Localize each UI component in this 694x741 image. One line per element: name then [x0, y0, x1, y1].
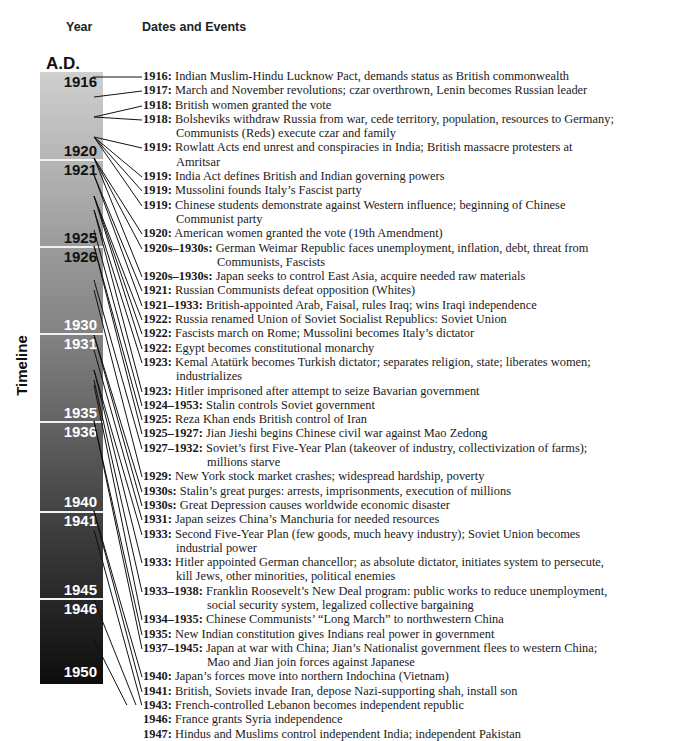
connector-line — [94, 640, 142, 705]
event-date: 1922: — [143, 312, 172, 326]
connector-line — [94, 350, 142, 520]
event-date: 1933–1938: — [143, 584, 203, 598]
event-text-continued: millions starve — [143, 455, 693, 469]
event-item: 1946: France grants Syria independence — [143, 712, 693, 726]
event-item: 1916: Indian Muslim-Hindu Lucknow Pact, … — [143, 69, 693, 83]
event-item: 1927–1932: Soviet’s first Five-Year Plan… — [143, 441, 693, 470]
event-item: 1933: Hitler appointed German chancellor… — [143, 555, 693, 584]
event-text-continued: industrializes — [143, 369, 693, 383]
event-text: India Act defines British and Indian gov… — [175, 169, 444, 183]
event-text: Japan at war with China; Jian’s National… — [206, 641, 597, 655]
event-text: British women granted the vote — [175, 98, 331, 112]
event-date: 1935: — [143, 627, 172, 641]
event-date: 1921: — [143, 283, 172, 297]
event-text: Chinese students demonstrate against Wes… — [175, 198, 565, 212]
event-item: 1919: Mussolini founds Italy’s Fascist p… — [143, 183, 693, 197]
event-text: Russia renamed Union of Soviet Socialist… — [175, 312, 507, 326]
event-item: 1918: Bolsheviks withdraw Russia from wa… — [143, 112, 693, 141]
event-item: 1922: Egypt becomes constitutional monar… — [143, 341, 693, 355]
event-item: 1919: Chinese students demonstrate again… — [143, 198, 693, 227]
event-date: 1937–1945: — [143, 641, 203, 655]
event-date: 1919: — [143, 198, 172, 212]
event-date: 1941: — [143, 684, 172, 698]
event-text: March and November revolutions; czar ove… — [175, 83, 587, 97]
event-date: 1924–1953: — [143, 398, 203, 412]
event-text: Chinese Communists’ “Long March” to nort… — [206, 612, 504, 626]
event-item: 1937–1945: Japan at war with China; Jian… — [143, 641, 693, 670]
event-text: Stalin’s great purges: arrests, imprison… — [180, 484, 511, 498]
event-date: 1934–1935: — [143, 612, 203, 626]
event-item: 1921–1933: British-appointed Arab, Faisa… — [143, 298, 693, 312]
event-text: Japan seizes China’s Manchuria for neede… — [175, 512, 439, 526]
event-text: Jian Jieshi begins Chinese civil war aga… — [206, 426, 488, 440]
event-date: 1920s–1930s: — [143, 241, 213, 255]
event-date: 1922: — [143, 341, 172, 355]
event-date: 1921–1933: — [143, 298, 203, 312]
connector-line — [94, 106, 142, 117]
event-date: 1930s: — [143, 498, 177, 512]
event-text-continued: social security system, legalized collec… — [143, 598, 693, 612]
event-item: 1933: Second Five-Year Plan (few goods, … — [143, 527, 693, 556]
event-text: Second Five-Year Plan (few goods, much h… — [175, 527, 580, 541]
connector-line — [94, 117, 142, 120]
event-text: Hitler appointed German chancellor; as a… — [175, 555, 604, 569]
event-item: 1930s: Stalin’s great purges: arrests, i… — [143, 484, 693, 498]
event-date: 1927–1932: — [143, 441, 203, 455]
event-text: Japan’s forces move into northern Indoch… — [175, 669, 449, 683]
event-text: American women granted the vote (19th Am… — [174, 226, 442, 240]
event-item: 1920: American women granted the vote (1… — [143, 226, 693, 240]
event-item: 1941: British, Soviets invade Iran, depo… — [143, 684, 693, 698]
event-text: Bolsheviks withdraw Russia from war, ced… — [175, 112, 614, 126]
event-text: Fascists march on Rome; Mussolini become… — [175, 326, 474, 340]
event-item: 1919: India Act defines British and Indi… — [143, 169, 693, 183]
event-text: British, Soviets invade Iran, depose Naz… — [175, 684, 517, 698]
event-item: 1940: Japan’s forces move into northern … — [143, 669, 693, 683]
event-text-continued: Mao and Jian join forces against Japanes… — [143, 655, 693, 669]
event-item: 1920s–1930s: German Weimar Republic face… — [143, 241, 693, 270]
event-item: 1947: Hindus and Muslims control indepen… — [143, 727, 693, 741]
event-date: 1940: — [143, 669, 172, 683]
event-date: 1917: — [143, 83, 172, 97]
event-date: 1946: — [143, 712, 172, 726]
connector-line — [94, 137, 142, 191]
event-text: Japan seeks to control East Asia, acquir… — [216, 269, 526, 283]
event-item: 1924–1953: Stalin controls Soviet govern… — [143, 398, 693, 412]
event-item: 1923: Hitler imprisoned after attempt to… — [143, 384, 693, 398]
event-date: 1933: — [143, 555, 172, 569]
event-text-continued: kill Jews, other minorities, political e… — [143, 569, 693, 583]
event-item: 1922: Fascists march on Rome; Mussolini … — [143, 326, 693, 340]
event-date: 1919: — [143, 169, 172, 183]
event-item: 1918: British women granted the vote — [143, 98, 693, 112]
event-text: French-controlled Lebanon becomes indepe… — [175, 698, 464, 712]
event-item: 1925–1927: Jian Jieshi begins Chinese ci… — [143, 426, 693, 440]
event-text: Stalin controls Soviet government — [206, 398, 375, 412]
event-date: 1920s–1930s: — [143, 269, 213, 283]
event-text: Franklin Roosevelt’s New Deal program: p… — [206, 584, 607, 598]
event-text: Mussolini founds Italy’s Fascist party — [175, 183, 362, 197]
event-text-continued: Communist party — [143, 212, 693, 226]
event-item: 1921: Russian Communists defeat oppositi… — [143, 283, 693, 297]
event-date: 1925–1927: — [143, 426, 203, 440]
event-date: 1918: — [143, 112, 172, 126]
event-text: Hindus and Muslims control independent I… — [175, 727, 521, 741]
event-date: 1947: — [143, 727, 172, 741]
event-date: 1923: — [143, 355, 172, 369]
event-item: 1922: Russia renamed Union of Soviet Soc… — [143, 312, 693, 326]
event-text: Russian Communists defeat opposition (Wh… — [175, 283, 415, 297]
event-date: 1918: — [143, 98, 172, 112]
event-date: 1925: — [143, 412, 172, 426]
event-item: 1930s: Great Depression causes worldwide… — [143, 498, 693, 512]
event-text: Egypt becomes constitutional monarchy — [175, 341, 374, 355]
event-date: 1920: — [143, 226, 172, 240]
event-date: 1919: — [143, 140, 172, 154]
event-item: 1923: Kemal Atatürk becomes Turkish dict… — [143, 355, 693, 384]
event-item: 1920s–1930s: Japan seeks to control East… — [143, 269, 693, 283]
event-item: 1931: Japan seizes China’s Manchuria for… — [143, 512, 693, 526]
event-date: 1916: — [143, 69, 172, 83]
event-item: 1925: Reza Khan ends British control of … — [143, 412, 693, 426]
event-text: Rowlatt Acts end unrest and conspiracies… — [175, 140, 572, 154]
event-date: 1931: — [143, 512, 172, 526]
event-text: New Indian constitution gives Indians re… — [175, 627, 494, 641]
event-text: Reza Khan ends British control of Iran — [175, 412, 367, 426]
event-text: New York stock market crashes; widesprea… — [175, 469, 484, 483]
